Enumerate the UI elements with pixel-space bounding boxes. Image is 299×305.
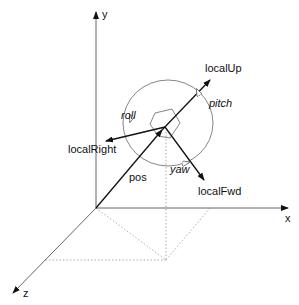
- pos-vector: [96, 130, 162, 208]
- local-fwd-label: localFwd: [198, 186, 241, 197]
- z-axis-label: z: [23, 288, 29, 299]
- coordinate-diagram: y x z localUp localRight localFwd pos ro…: [0, 0, 299, 305]
- local-right-vector: [106, 127, 165, 141]
- yaw-label: yaw: [170, 164, 190, 175]
- object-box: [150, 109, 180, 138]
- z-axis: [13, 208, 96, 293]
- roll-label: roll: [121, 110, 136, 121]
- pitch-label: pitch: [209, 98, 232, 109]
- local-up-vector: [162, 80, 210, 130]
- axes: [13, 12, 288, 293]
- local-right-label: localRight: [68, 144, 116, 155]
- pos-label: pos: [129, 172, 147, 183]
- y-axis-label: y: [102, 9, 108, 20]
- local-up-label: localUp: [205, 63, 242, 74]
- diagram-graphics: [0, 0, 299, 305]
- x-axis-label: x: [285, 213, 291, 224]
